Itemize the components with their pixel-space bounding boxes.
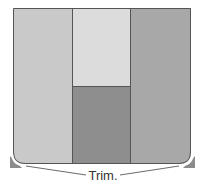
left-panel [13, 8, 72, 164]
trim-diagram: Trim. [0, 0, 205, 188]
leader-line-left [26, 166, 86, 175]
middle-bottom-panel [72, 86, 130, 164]
right-panel [130, 8, 191, 164]
leader-line-right [120, 166, 179, 175]
middle-top-panel [72, 8, 130, 86]
trim-label: Trim. [88, 168, 117, 183]
